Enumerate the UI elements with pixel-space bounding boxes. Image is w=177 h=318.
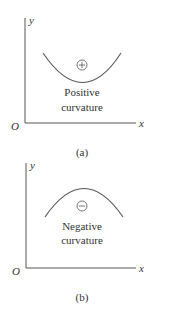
curvature-text-b-line1: Negative [42, 220, 122, 232]
caption-b: (b) [42, 291, 122, 303]
curvature-diagram [0, 0, 177, 318]
x-axis-label-b: x [139, 262, 144, 274]
caption-a: (a) [42, 146, 122, 158]
origin-label-a: O [11, 120, 19, 132]
y-axis-label-b: y [30, 159, 35, 171]
origin-label-b: O [12, 265, 20, 277]
panel-b [26, 163, 136, 268]
curvature-text-a-line1: Positive [42, 86, 122, 98]
curvature-text-b-line2: curvature [42, 234, 122, 246]
y-axis-label-a: y [29, 14, 34, 26]
x-axis-label-a: x [139, 117, 144, 129]
concave-down-curve [45, 189, 123, 218]
curvature-text-a-line2: curvature [42, 101, 122, 113]
